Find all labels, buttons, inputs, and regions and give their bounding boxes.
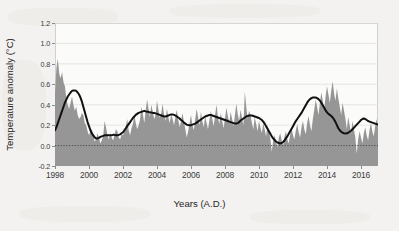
paper-texture-blotch [250, 210, 370, 224]
x-tick-mark [327, 166, 328, 169]
x-tick-label: 2014 [318, 170, 336, 180]
x-tick-mark [55, 166, 56, 169]
x-tick-label: 2008 [216, 170, 234, 180]
x-tick-label: 2010 [250, 170, 268, 180]
y-tick-label: 1.0 [41, 39, 50, 48]
y-tick-mark [52, 146, 55, 147]
plot-area [55, 23, 378, 166]
y-tick-mark [52, 64, 55, 65]
y-tick-label: 0.8 [41, 59, 50, 68]
y-axis-label: Temperature anomaly (°C) [3, 23, 17, 166]
x-tick-label: 2006 [182, 170, 200, 180]
x-tick-mark [191, 166, 192, 169]
x-tick-mark [361, 166, 362, 169]
y-tick-mark [52, 23, 55, 24]
x-tick-label: 2004 [148, 170, 166, 180]
x-tick-label: 1998 [46, 170, 64, 180]
y-tick-mark [52, 43, 55, 44]
paper-texture-blotch [170, 4, 320, 18]
y-tick-label: 0.0 [41, 141, 50, 150]
x-tick-mark [123, 166, 124, 169]
x-tick-label: 2016 [352, 170, 370, 180]
y-tick-mark [52, 125, 55, 126]
y-tick-label: 1.2 [41, 19, 50, 28]
y-tick-label: 0.6 [41, 80, 50, 89]
y-tick-mark [52, 84, 55, 85]
x-tick-label: 2012 [284, 170, 302, 180]
figure-canvas: Temperature anomaly (°C) -0.20.00.20.40.… [0, 0, 399, 231]
area-series-monthly-anomaly [55, 46, 378, 166]
x-tick-label: 2000 [80, 170, 98, 180]
x-tick-mark [293, 166, 294, 169]
y-tick-label: 0.2 [41, 121, 50, 130]
y-tick-label: 0.4 [41, 100, 50, 109]
x-tick-mark [157, 166, 158, 169]
x-tick-mark [89, 166, 90, 169]
chart-svg [55, 23, 378, 166]
x-axis-label: Years (A.D.) [0, 198, 399, 209]
x-tick-mark [225, 166, 226, 169]
x-tick-mark [259, 166, 260, 169]
y-tick-mark [52, 105, 55, 106]
x-tick-label: 2002 [114, 170, 132, 180]
